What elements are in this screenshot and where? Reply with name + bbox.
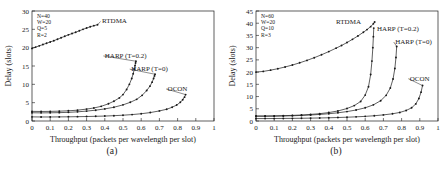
data-point [262,70,264,72]
data-point [135,62,137,64]
data-point [40,116,42,118]
data-point [100,105,102,107]
data-point [58,112,60,114]
parameter-annotation: Q=10 [261,25,274,31]
data-point [366,29,368,31]
data-point [291,115,293,117]
y-axis-title: Delay (slots) [228,45,237,86]
data-point [131,114,133,116]
data-point [128,83,130,85]
data-point [364,115,366,117]
x-tick-label: 0.5 [343,124,352,132]
data-point [113,106,115,108]
series-curve-ocon [32,95,186,117]
data-point [40,112,42,114]
data-point [129,101,131,103]
data-point [86,27,88,29]
data-point [126,89,128,91]
x-tick-label: 0.7 [379,124,388,132]
data-point [301,117,303,119]
data-point [64,35,66,37]
parameter-annotation: N=60 [261,13,274,19]
y-tick-label: 5 [250,105,254,113]
data-point [57,38,59,40]
data-point [380,100,382,102]
x-tick-label: 0.8 [397,124,406,132]
data-point [422,85,424,87]
series-label-harp-t-0: HARP (T=0) [395,38,432,46]
data-point [291,64,293,66]
y-tick-label: 40 [246,20,254,28]
data-point [353,105,355,107]
parameter-annotation: W=20 [261,19,275,25]
data-point [49,41,51,43]
data-point [370,74,372,76]
data-point [374,21,376,23]
series-label-harp-t-0: HARP (T=0) [131,65,168,73]
data-point [38,45,40,47]
data-point [394,67,396,69]
x-tick-label: 0.1 [270,124,279,132]
x-tick-label: 0.3 [306,124,315,132]
x-tick-label: 0 [30,124,34,132]
y-tick-label: 5 [26,99,30,107]
data-point [346,108,348,110]
y-tick-label: 0 [26,118,30,126]
data-point [301,114,303,116]
x-tick-label: 1 [212,124,216,132]
data-point [184,96,186,98]
data-point [140,113,142,115]
data-point [49,116,51,118]
x-tick-label: 0.6 [137,124,146,132]
data-point [182,99,184,101]
data-point [153,78,155,80]
data-point [355,109,357,111]
series-label-harp-t-0-2: HARP (T=0.2) [377,25,419,33]
subcaption-b: (b) [224,146,448,156]
figure-panel-a: 00.10.20.30.40.50.60.70.80.9105101520253… [0,0,224,170]
x-tick-label: 0.9 [191,124,200,132]
data-point [337,112,339,114]
y-tick-label: 30 [246,44,254,52]
data-point [270,69,272,71]
data-point [77,111,79,113]
series-label-harp-t-0-2: HARP (T=0.2) [105,52,147,60]
data-point [149,112,151,114]
data-point [77,116,79,118]
figure-panel-b: 00.10.20.30.40.50.60.70.80.9105101520253… [224,0,448,170]
data-point [89,26,91,28]
data-point [382,114,384,116]
x-tick-label: 0.4 [324,124,333,132]
data-point [264,115,266,117]
data-point [151,81,153,83]
data-point [346,111,348,113]
data-point [337,117,339,119]
data-point [122,94,124,96]
x-tick-label: 0.1 [46,124,55,132]
data-point [385,94,387,96]
data-point [310,114,312,116]
parameter-annotation: R=3 [261,32,271,38]
chart-a: 00.10.20.30.40.50.60.70.80.9105101520253… [0,0,224,170]
series-leader-line [98,21,101,24]
data-point [176,104,178,106]
data-point [328,117,330,119]
data-point [395,56,397,58]
data-point [146,90,148,92]
data-point [255,118,257,120]
data-point [368,86,370,88]
data-point [306,59,308,61]
data-point [35,46,37,48]
data-point [372,36,374,38]
data-point [282,117,284,119]
series-label-ocon: OCON [410,75,430,83]
y-tick-label: 10 [22,81,30,89]
data-point [122,104,124,106]
data-point [78,30,80,32]
series-curve-harp-t-0 [32,74,155,113]
data-point [82,28,84,30]
y-tick-label: 15 [246,81,254,89]
x-axis-title: Throughput (packets per wavelength per s… [50,135,196,144]
data-point [277,68,279,70]
data-point [113,115,115,117]
